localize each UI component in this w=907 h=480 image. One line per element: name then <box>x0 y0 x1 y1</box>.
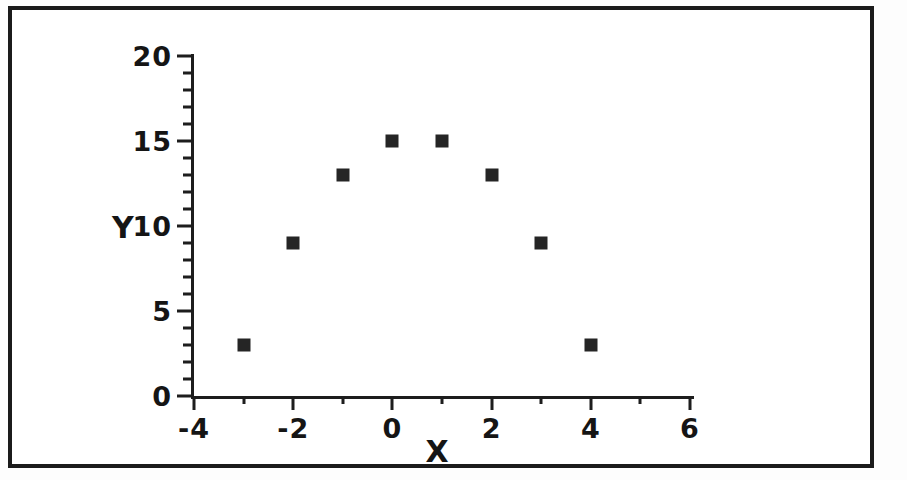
x-tick-major <box>490 396 493 410</box>
x-tick-minor <box>341 396 344 404</box>
y-tick-major <box>177 55 191 58</box>
y-tick-minor <box>183 106 191 109</box>
y-tick-minor <box>183 344 191 347</box>
y-tick-minor <box>183 157 191 160</box>
plot-area: 05101520 -4-20246 <box>194 56 690 396</box>
y-tick-minor <box>183 276 191 279</box>
y-tick-minor <box>183 293 191 296</box>
data-point <box>584 339 597 352</box>
data-point <box>386 135 399 148</box>
data-point <box>535 237 548 250</box>
x-tick-minor <box>441 396 444 404</box>
y-axis-title: Y <box>112 210 134 245</box>
y-tick-major <box>177 395 191 398</box>
data-point <box>336 169 349 182</box>
y-tick-major <box>177 140 191 143</box>
x-tick-major <box>391 396 394 410</box>
y-tick-minor <box>183 259 191 262</box>
x-tick-label: -2 <box>277 413 309 444</box>
x-tick-label: -4 <box>178 413 210 444</box>
y-tick-minor <box>183 242 191 245</box>
y-tick-label: 10 <box>132 211 172 242</box>
data-point <box>237 339 250 352</box>
y-tick-minor <box>183 208 191 211</box>
y-tick-minor <box>183 123 191 126</box>
y-tick-minor <box>183 327 191 330</box>
data-point <box>485 169 498 182</box>
data-point <box>436 135 449 148</box>
x-tick-minor <box>242 396 245 404</box>
x-tick-label: 2 <box>482 413 502 444</box>
y-tick-minor <box>183 174 191 177</box>
x-tick-major <box>193 396 196 410</box>
y-tick-label: 20 <box>132 41 172 72</box>
data-point <box>287 237 300 250</box>
y-tick-minor <box>183 72 191 75</box>
y-tick-major <box>177 225 191 228</box>
x-tick-label: 4 <box>581 413 601 444</box>
scanned-page: Y X 05101520 -4-20246 <box>0 0 907 480</box>
y-tick-label: 0 <box>152 381 172 412</box>
y-tick-minor <box>183 89 191 92</box>
y-tick-label: 5 <box>152 296 172 327</box>
y-axis-spine <box>191 54 194 398</box>
x-axis-title: X <box>425 434 448 469</box>
x-tick-minor <box>540 396 543 404</box>
y-tick-label: 15 <box>132 126 172 157</box>
y-tick-minor <box>183 361 191 364</box>
y-tick-minor <box>183 378 191 381</box>
y-tick-major <box>177 310 191 313</box>
x-tick-label: 6 <box>680 413 700 444</box>
x-tick-major <box>589 396 592 410</box>
x-tick-major <box>689 396 692 410</box>
y-tick-minor <box>183 191 191 194</box>
x-tick-major <box>292 396 295 410</box>
figure-frame: Y X 05101520 -4-20246 <box>8 6 874 468</box>
x-tick-label: 0 <box>382 413 402 444</box>
x-tick-minor <box>639 396 642 404</box>
